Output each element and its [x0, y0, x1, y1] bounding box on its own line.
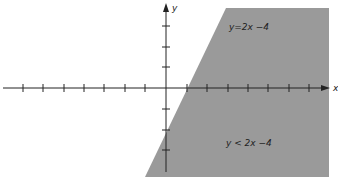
region-label: y < 2x −4: [225, 138, 272, 148]
x-axis-label: x: [332, 83, 338, 93]
y-axis-arrow-icon: [163, 3, 169, 12]
shaded-region: [145, 8, 329, 177]
boundary-line-label: y=2x −4: [228, 22, 269, 32]
inequality-graph: x y y=2x −4 y < 2x −4: [0, 0, 338, 185]
y-axis-label: y: [171, 3, 178, 13]
